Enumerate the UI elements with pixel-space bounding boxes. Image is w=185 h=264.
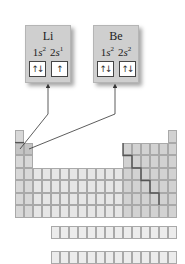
lithium-pointer-line bbox=[20, 86, 48, 149]
connector-arrows bbox=[0, 0, 185, 264]
beryllium-pointer-line bbox=[29, 86, 115, 149]
metal-nonmetal-staircase bbox=[123, 143, 159, 205]
